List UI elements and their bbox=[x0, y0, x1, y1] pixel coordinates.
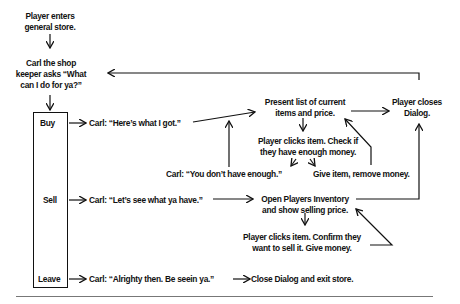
node-present-list: Present list of current items and price. bbox=[252, 96, 358, 118]
menu-option-sell: Sell bbox=[43, 194, 57, 205]
node-player-closes-dialog: Player closes Dialog. bbox=[386, 96, 448, 118]
node-buy-click-check: Player clicks item. Check if they have e… bbox=[252, 135, 365, 157]
menu-option-buy: Buy bbox=[40, 117, 55, 128]
node-sell-greeting: Carl: “Let’s see what ya have.” bbox=[89, 194, 203, 205]
node-exit-store: Close Dialog and exit store. bbox=[251, 273, 353, 284]
node-sell-click-confirm: Player clicks item. Confirm they want to… bbox=[240, 231, 363, 253]
node-shopkeeper-asks: Carl the shop keeper asks “What can I do… bbox=[11, 57, 90, 90]
node-not-enough-money: Carl: “You don’t have enough.” bbox=[166, 168, 282, 179]
bottom-divider bbox=[16, 296, 433, 297]
node-give-item: Give item, remove money. bbox=[313, 168, 410, 179]
flowchart-canvas: Player enters general store. Carl the sh… bbox=[0, 0, 460, 304]
node-enter-store: Player enters general store. bbox=[17, 10, 84, 32]
node-leave-farewell: Carl: “Alrighty then. Be seein ya.” bbox=[89, 273, 214, 284]
node-buy-greeting: Carl: “Here’s what I got.” bbox=[89, 117, 181, 128]
node-open-inventory: Open Players Inventory and show selling … bbox=[254, 193, 356, 215]
connector-arrows bbox=[0, 0, 460, 304]
menu-option-leave: Leave bbox=[38, 273, 60, 284]
